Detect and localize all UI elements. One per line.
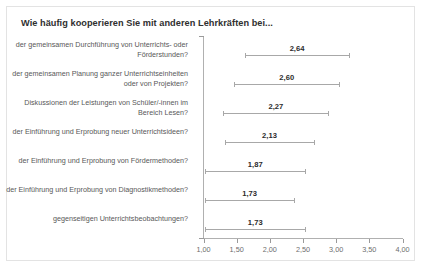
x-tick-label: 1,00 xyxy=(196,245,210,254)
value-label: 2,60 xyxy=(279,73,294,82)
interval-whisker xyxy=(328,111,329,116)
interval-whisker xyxy=(245,53,246,58)
category-label: der gemeinsamen Planung ganzer Unterrich… xyxy=(0,69,192,88)
interval-whisker xyxy=(305,227,306,232)
x-tick-label: 3,50 xyxy=(362,245,376,254)
value-label: 2,64 xyxy=(290,44,305,53)
value-label: 2,27 xyxy=(268,102,283,111)
x-tick xyxy=(336,239,337,243)
interval-whisker xyxy=(314,140,315,145)
interval-line xyxy=(205,171,305,172)
category-label: der Einführung und Erprobung von Diagnos… xyxy=(0,185,192,195)
category-label: der Einführung und Erprobung von Förderm… xyxy=(0,156,192,166)
interval-whisker xyxy=(205,227,206,232)
value-label: 1,73 xyxy=(248,218,263,227)
interval-whisker xyxy=(294,198,295,203)
x-tick-label: 2,50 xyxy=(296,245,310,254)
value-label: 1,87 xyxy=(248,160,263,169)
y-axis-cap xyxy=(199,36,204,37)
x-tick-label: 1,50 xyxy=(230,245,244,254)
x-tick-label: 4,00 xyxy=(395,245,409,254)
chart-plot-area: 1,001,502,002,503,003,504,00 der gemeins… xyxy=(0,0,423,269)
interval-line xyxy=(245,55,350,56)
interval-whisker xyxy=(223,111,224,116)
interval-line xyxy=(234,84,339,85)
x-tick xyxy=(303,239,304,243)
value-label: 2,13 xyxy=(262,131,277,140)
interval-whisker xyxy=(339,82,340,87)
x-tick xyxy=(369,239,370,243)
interval-whisker xyxy=(234,82,235,87)
category-label: Diskussionen der Leistungen von Schüler/… xyxy=(0,98,192,117)
interval-line xyxy=(223,113,328,114)
interval-whisker xyxy=(205,198,206,203)
x-tick-label: 2,00 xyxy=(263,245,277,254)
interval-line xyxy=(205,229,305,230)
x-tick xyxy=(237,239,238,243)
x-tick-label: 3,00 xyxy=(329,245,343,254)
x-tick xyxy=(270,239,271,243)
category-label: der gemeinsamen Durchführung von Unterri… xyxy=(0,40,192,59)
value-label: 1,73 xyxy=(242,189,257,198)
x-tick xyxy=(403,239,404,243)
interval-line xyxy=(225,142,313,143)
interval-line xyxy=(205,200,293,201)
interval-whisker xyxy=(349,53,350,58)
interval-whisker xyxy=(305,169,306,174)
category-label: der Einführung und Erprobung neuer Unter… xyxy=(0,127,192,137)
interval-whisker xyxy=(205,169,206,174)
interval-whisker xyxy=(225,140,226,145)
x-tick xyxy=(204,239,205,243)
y-axis-line xyxy=(203,36,204,239)
category-label: gegenseitigen Unterrichtsbeobachtungen? xyxy=(0,214,192,224)
